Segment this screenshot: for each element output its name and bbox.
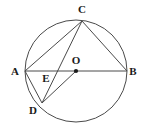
vertex-label-E: E	[42, 73, 49, 84]
vertex-label-A: A	[11, 66, 19, 77]
vertex-label-O: O	[72, 55, 81, 66]
center-point-marker-O	[74, 69, 78, 73]
vertex-label-D: D	[29, 105, 37, 116]
geometry-figure: C A O B E D	[0, 0, 143, 127]
vertex-label-C: C	[78, 4, 86, 15]
vertex-label-B: B	[129, 66, 136, 77]
